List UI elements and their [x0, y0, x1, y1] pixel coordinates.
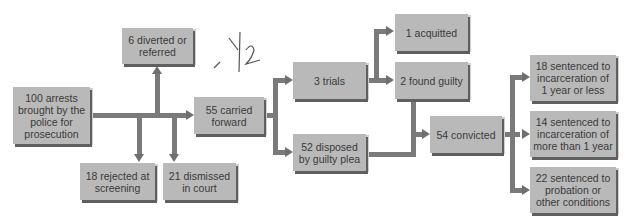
node-label: 22 sentenced to probation or other condi…	[533, 172, 613, 208]
node-carried: 55 carried forward	[194, 97, 264, 134]
node-arrests: 100 arrests brought by the police for pr…	[13, 87, 90, 144]
arrow-right-icon	[386, 26, 394, 36]
arrow-right-icon	[386, 75, 394, 85]
connector	[172, 117, 177, 155]
arrow-down-icon	[169, 154, 179, 162]
connector	[510, 75, 515, 192]
arrow-right-icon	[422, 129, 430, 139]
arrow-up-icon	[152, 66, 162, 74]
node-label: 2 found guilty	[400, 75, 462, 87]
node-label: 54 convicted	[437, 129, 496, 141]
arrow-right-icon	[285, 75, 293, 85]
node-rejected: 18 rejected at screening	[80, 163, 155, 200]
node-label: 55 carried forward	[197, 104, 261, 128]
node-label: 6 diverted or referred	[125, 34, 190, 58]
node-label: 100 arrests brought by the police for pr…	[16, 92, 87, 140]
connector	[137, 117, 142, 155]
arrow-right-icon	[522, 72, 530, 82]
node-label: 14 sentenced to incarceration of more th…	[533, 116, 613, 152]
node-convicted: 54 convicted	[430, 116, 502, 153]
node-label: 1 acquitted	[406, 27, 457, 39]
arrow-down-icon	[134, 154, 144, 162]
node-plea: 52 disposed by guilty plea	[293, 134, 366, 171]
connector	[374, 29, 379, 81]
node-trials: 3 trials	[293, 62, 366, 99]
connector	[273, 78, 278, 154]
arrow-right-icon	[522, 129, 530, 139]
node-label: 18 rejected at screening	[83, 170, 152, 194]
node-label: 52 disposed by guilty plea	[296, 141, 363, 165]
node-acquitted: 1 acquitted	[395, 14, 468, 51]
node-sentenced-long: 14 sentenced to incarceration of more th…	[530, 111, 616, 157]
arrow-right-icon	[186, 110, 194, 120]
node-dismissed: 21 dismissed in court	[163, 163, 236, 200]
node-label: 3 trials	[314, 75, 345, 87]
handwritten-note-icon	[210, 28, 266, 74]
connector	[155, 74, 160, 114]
node-diverted: 6 diverted or referred	[122, 28, 193, 64]
connector	[411, 99, 416, 156]
node-found-guilty: 2 found guilty	[395, 62, 468, 99]
node-probation: 22 sentenced to probation or other condi…	[530, 167, 616, 213]
arrow-right-icon	[285, 147, 293, 157]
node-label: 21 dismissed in court	[166, 170, 233, 194]
node-sentenced-short: 18 sentenced to incarceration of 1 year …	[530, 55, 616, 101]
arrow-right-icon	[522, 185, 530, 195]
connector	[366, 152, 416, 157]
node-label: 18 sentenced to incarceration of 1 year …	[533, 60, 613, 96]
